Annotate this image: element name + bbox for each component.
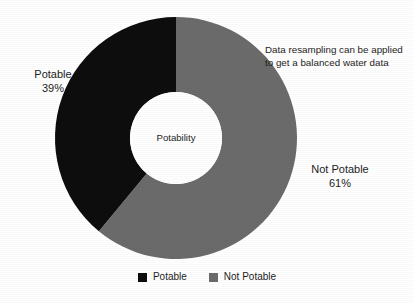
chart-annotation: Data resampling can be applied to get a … [265, 43, 403, 69]
legend-swatch-potable-icon [138, 273, 147, 282]
slice-label-potable: Potable 39% [22, 68, 84, 95]
chart-annotation-line-1: Data resampling can be applied [265, 43, 403, 56]
legend-item-not-potable: Not Potable [209, 272, 276, 282]
slice-label-potable-percent: 39% [22, 82, 84, 96]
slice-label-potable-name: Potable [22, 68, 84, 82]
legend-label-potable: Potable [153, 272, 187, 282]
slice-label-not-potable-name: Not Potable [299, 163, 381, 177]
legend-swatch-not-potable-icon [209, 273, 218, 282]
legend-item-potable: Potable [138, 272, 187, 282]
chart-annotation-line-2: to get a balanced water data [265, 56, 403, 69]
donut-center-label: Potability [126, 131, 226, 145]
slice-label-not-potable-percent: 61% [299, 177, 381, 191]
slice-label-not-potable: Not Potable 61% [299, 163, 381, 190]
legend-label-not-potable: Not Potable [224, 272, 276, 282]
donut-chart-figure: Data resampling can be applied to get a … [0, 0, 414, 303]
chart-legend: Potable Not Potable [0, 272, 414, 282]
